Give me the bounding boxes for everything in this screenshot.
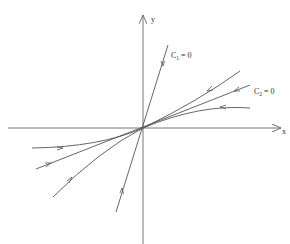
arrow-icon — [57, 147, 63, 150]
y-axis-label: y — [151, 15, 155, 24]
c2-label: C2 = 0 — [254, 87, 275, 97]
x-axis-label: x — [282, 127, 286, 136]
arrow-icon — [207, 86, 213, 91]
phase-portrait-diagram: x y C1 = 0 C2 = 0 — [0, 0, 290, 244]
c1-label: C1 = 0 — [171, 51, 192, 61]
